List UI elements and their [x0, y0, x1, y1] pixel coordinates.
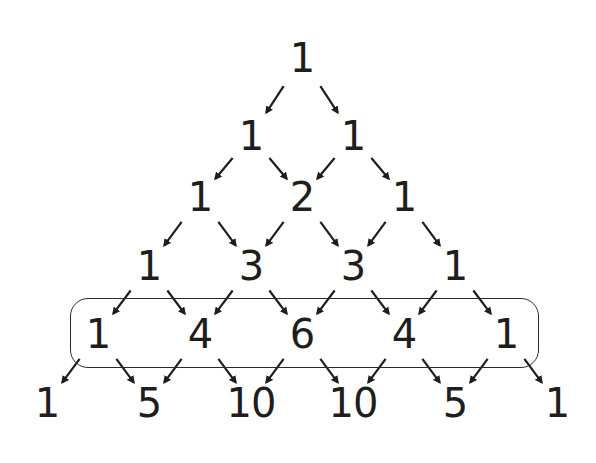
- triangle-entry: 6: [290, 314, 314, 354]
- triangle-entry: 2: [290, 177, 314, 217]
- arrow-down-right-icon: [320, 86, 337, 113]
- triangle-entry: 5: [137, 383, 161, 423]
- arrow-down-left-icon: [317, 158, 334, 179]
- triangle-entry: 5: [443, 383, 467, 423]
- arrow-down-left-icon: [164, 222, 181, 245]
- triangle-entry: 10: [329, 383, 378, 423]
- triangle-entry: 3: [341, 246, 365, 286]
- arrow-down-left-icon: [266, 86, 283, 113]
- arrow-down-right-icon: [218, 222, 235, 245]
- arrow-down-right-icon: [320, 222, 337, 245]
- arrow-down-left-icon: [368, 222, 385, 245]
- pascal-triangle-diagram: 11112113311464115101051: [0, 0, 596, 463]
- arrow-down-right-icon: [269, 158, 286, 179]
- triangle-entry: 1: [392, 177, 416, 217]
- arrow-down-right-icon: [371, 158, 388, 179]
- triangle-entry: 1: [137, 246, 161, 286]
- arrow-down-left-icon: [215, 158, 232, 179]
- triangle-entry: 4: [188, 314, 212, 354]
- triangle-entry: 1: [35, 383, 59, 423]
- arrow-down-left-icon: [266, 222, 283, 245]
- triangle-entry: 4: [392, 314, 416, 354]
- triangle-entry: 1: [86, 314, 110, 354]
- triangle-entry: 1: [290, 38, 314, 78]
- triangle-entry: 1: [494, 314, 518, 354]
- triangle-entry: 1: [443, 246, 467, 286]
- triangle-entry: 1: [239, 116, 263, 156]
- triangle-entry: 3: [239, 246, 263, 286]
- triangle-entry: 1: [188, 177, 212, 217]
- triangle-entry: 10: [227, 383, 276, 423]
- arrow-down-right-icon: [422, 222, 439, 245]
- triangle-entry: 1: [341, 116, 365, 156]
- triangle-entry: 1: [545, 383, 569, 423]
